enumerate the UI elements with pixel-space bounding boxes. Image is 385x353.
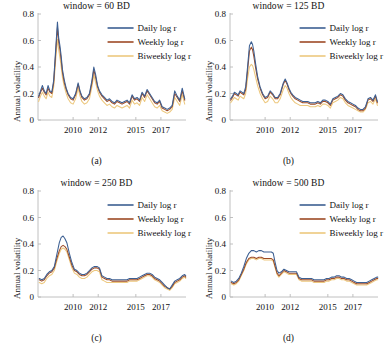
x-tick-label-b-2: 2015 (319, 125, 338, 135)
plot-area-b: 00.20.40.60.82010201220152017Daily log r… (192, 0, 385, 177)
legend-entry-biweekly-a: Biweekly log r (108, 51, 192, 61)
legend-entry-weekly-a: Weekly log r (108, 37, 184, 47)
panel-c: window = 250 BDAnnual volatility(c)00.20… (0, 177, 193, 353)
y-tick-label-b-0: 0 (222, 115, 227, 125)
x-tick-label-c-1: 2012 (89, 302, 107, 312)
y-tick-label-b-3: 0.6 (215, 36, 227, 46)
legend-label-weekly-a: Weekly log r (138, 37, 184, 47)
legend-entry-daily-a: Daily log r (108, 23, 177, 33)
legend-entry-daily-c: Daily log r (108, 200, 177, 210)
x-tick-label-d-2: 2015 (319, 302, 338, 312)
y-tick-label-c-0: 0 (30, 292, 35, 302)
x-tick-label-a-3: 2017 (152, 125, 171, 135)
legend-entry-weekly-b: Weekly log r (300, 37, 376, 47)
legend-label-weekly-b: Weekly log r (330, 37, 376, 47)
panel-b: window = 125 BDAnnual volatility(b)00.20… (192, 0, 385, 177)
legend-label-daily-c: Daily log r (138, 200, 177, 210)
plot-area-d: 00.20.40.60.82010201220152017Daily log r… (192, 177, 385, 353)
y-tick-label-b-4: 0.8 (215, 9, 227, 19)
x-tick-label-a-2: 2015 (127, 125, 146, 135)
x-tick-label-a-0: 2010 (64, 125, 83, 135)
x-tick-label-d-3: 2017 (344, 302, 363, 312)
y-tick-label-d-4: 0.8 (215, 186, 227, 196)
legend-entry-biweekly-c: Biweekly log r (108, 228, 192, 238)
x-tick-label-c-2: 2015 (127, 302, 146, 312)
legend-label-weekly-c: Weekly log r (138, 214, 184, 224)
panel-a: window = 60 BDAnnual volatility(a)00.20.… (0, 0, 193, 177)
legend-label-biweekly-d: Biweekly log r (330, 228, 384, 238)
y-tick-label-a-3: 0.6 (23, 36, 35, 46)
y-tick-label-a-4: 0.8 (23, 9, 35, 19)
legend-label-biweekly-c: Biweekly log r (138, 228, 192, 238)
plot-area-c: 00.20.40.60.82010201220152017Daily log r… (0, 177, 193, 353)
y-tick-label-c-2: 0.4 (23, 239, 35, 249)
y-tick-label-d-3: 0.6 (215, 213, 227, 223)
x-tick-label-b-0: 2010 (256, 125, 275, 135)
x-tick-label-d-1: 2012 (281, 302, 299, 312)
legend-entry-weekly-c: Weekly log r (108, 214, 184, 224)
legend-label-daily-a: Daily log r (138, 23, 177, 33)
legend-label-weekly-d: Weekly log r (330, 214, 376, 224)
panel-d: window = 500 BDAnnual volatility(d)00.20… (192, 177, 385, 353)
plot-area-a: 00.20.40.60.82010201220152017Daily log r… (0, 0, 193, 177)
y-tick-label-d-2: 0.4 (215, 239, 227, 249)
x-tick-label-d-0: 2010 (256, 302, 275, 312)
y-tick-label-a-2: 0.4 (23, 62, 35, 72)
legend-label-biweekly-a: Biweekly log r (138, 51, 192, 61)
legend-entry-weekly-d: Weekly log r (300, 214, 376, 224)
y-tick-label-d-1: 0.2 (215, 266, 226, 276)
legend-entry-daily-d: Daily log r (300, 200, 369, 210)
y-tick-label-c-1: 0.2 (23, 266, 34, 276)
series-line-weekly-d (231, 257, 378, 284)
y-tick-label-c-4: 0.8 (23, 186, 35, 196)
legend-label-biweekly-b: Biweekly log r (330, 51, 384, 61)
x-tick-label-c-3: 2017 (152, 302, 171, 312)
figure-volatility-panels: window = 60 BDAnnual volatility(a)00.20.… (0, 0, 385, 353)
y-tick-label-d-0: 0 (222, 292, 227, 302)
y-tick-label-a-1: 0.2 (23, 89, 34, 99)
x-tick-label-b-1: 2012 (281, 125, 299, 135)
legend-entry-biweekly-b: Biweekly log r (300, 51, 384, 61)
y-tick-label-b-1: 0.2 (215, 89, 226, 99)
x-tick-label-c-0: 2010 (64, 302, 83, 312)
legend-label-daily-b: Daily log r (330, 23, 369, 33)
legend-entry-daily-b: Daily log r (300, 23, 369, 33)
y-tick-label-c-3: 0.6 (23, 213, 35, 223)
y-tick-label-b-2: 0.4 (215, 62, 227, 72)
x-tick-label-a-1: 2012 (89, 125, 107, 135)
y-tick-label-a-0: 0 (30, 115, 35, 125)
x-tick-label-b-3: 2017 (344, 125, 363, 135)
legend-label-daily-d: Daily log r (330, 200, 369, 210)
legend-entry-biweekly-d: Biweekly log r (300, 228, 384, 238)
series-line-biweekly-d (231, 259, 378, 286)
series-line-daily-d (231, 251, 378, 283)
